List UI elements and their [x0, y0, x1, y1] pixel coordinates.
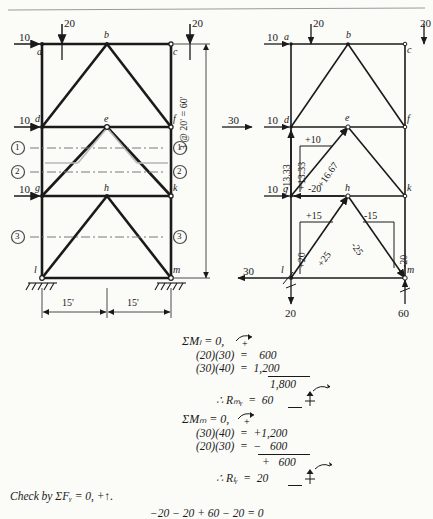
right-joint-l: l [281, 264, 284, 275]
force-gh-chord: -20 [308, 183, 321, 194]
left-load-20-c: 20 [192, 17, 203, 29]
eq-term-l-1: (20)(30) = 600 [196, 349, 277, 361]
section-label-1-left[interactable]: 1 [15, 142, 20, 152]
left-load-10-a: 10 [19, 31, 30, 43]
structural-diagrams [0, 0, 433, 330]
force-ge-horizontal-component: +10 [305, 134, 321, 145]
eq-term-m-2: (20)(30) = − 600 [196, 440, 287, 452]
left-joint-b: b [104, 29, 109, 40]
eq-result-rly: ∴ Rₗᵧ = 20 [216, 471, 268, 485]
eq-sum-moments-l: ΣMₗ = 0, [182, 334, 224, 349]
cw-curl-m [314, 462, 332, 472]
force-lh-vertical-component: +20 [296, 252, 307, 268]
section-label-2-right[interactable]: 2 [177, 166, 182, 176]
right-joint-b: b [346, 29, 351, 40]
left-joint-m: m [173, 264, 180, 275]
double-arrow-up-rly [304, 469, 316, 485]
right-load-10-g: 10 [267, 183, 278, 195]
right-load-10-a: 10 [267, 31, 278, 43]
eq-term-l-2: (30)(40) = 1,200 [196, 362, 279, 374]
rule-sum-m [258, 454, 310, 455]
left-joint-e: e [104, 113, 108, 124]
eq-sum-m-total: + 600 [262, 456, 296, 468]
eq-term-m-1: (30)(40) = +1,200 [196, 427, 287, 439]
ccw-moment-arrow-m: + [234, 410, 270, 426]
left-load-10-g: 10 [19, 183, 30, 195]
force-dg-vertical: -13.33 [281, 164, 292, 190]
force-hm-horizontal-component: -15 [364, 210, 377, 221]
vertical-dimension-label: 3 @ 20' = 60' [178, 97, 189, 150]
eq-check-math: −20 − 20 + 60 − 20 = 0 [150, 507, 264, 519]
force-lh-horizontal-component: +15 [306, 210, 322, 221]
left-load-20-a: 20 [64, 17, 75, 29]
eq-sum-l-total: 1,800 [270, 378, 296, 390]
svg-text:+: + [244, 416, 250, 426]
right-joint-h: h [345, 182, 350, 193]
left-joint-l: l [34, 264, 37, 275]
right-joint-d: d [284, 114, 289, 125]
section-label-3-right[interactable]: 3 [177, 231, 182, 241]
eq-sum-moments-m: ΣMₘ = 0, [182, 412, 229, 427]
rule-sum-l [268, 376, 310, 377]
left-joint-c: c [173, 46, 177, 57]
left-joint-k: k [173, 182, 177, 193]
right-load-20-a: 20 [313, 17, 324, 29]
right-joint-c: c [407, 44, 411, 55]
right-joint-a: a [284, 31, 289, 42]
right-resultant-30: 30 [228, 114, 239, 126]
right-joint-f: f [407, 113, 410, 124]
double-arrow-up-rmy [304, 391, 316, 407]
underline-rmy [288, 407, 302, 408]
right-reaction-20-l: 20 [285, 307, 296, 319]
underline-rly [288, 485, 302, 486]
dimension-15-left: 15' [62, 297, 74, 308]
eq-result-rmy: ∴ Rₘᵧ = 60 [216, 393, 273, 407]
right-joint-e: e [345, 112, 349, 123]
right-joint-k: k [407, 182, 411, 193]
eq-check-line: Check by ΣFᵧ = 0, +↑. [10, 490, 113, 502]
right-load-10-d: 10 [267, 114, 278, 126]
right-reaction-60-m: 60 [398, 307, 409, 319]
dimension-15-right: 15' [127, 297, 139, 308]
left-joint-a: a [37, 46, 42, 57]
header-rule [8, 8, 425, 10]
ccw-moment-arrow-l: + [232, 332, 268, 348]
left-joint-g: g [35, 182, 40, 193]
section-label-2-left[interactable]: 2 [15, 166, 20, 176]
svg-text:+: + [242, 338, 248, 348]
section-label-3-left[interactable]: 3 [15, 231, 20, 241]
left-load-10-d: 10 [19, 114, 30, 126]
force-ge-vertical-component: +13.33 [296, 162, 307, 190]
right-load-20-c: 20 [420, 17, 431, 29]
right-reaction-30: 30 [243, 265, 254, 277]
left-joint-f: f [173, 113, 176, 124]
force-hm-vertical-component: -20 [398, 255, 409, 268]
left-joint-d: d [35, 113, 40, 124]
left-joint-h: h [104, 182, 109, 193]
